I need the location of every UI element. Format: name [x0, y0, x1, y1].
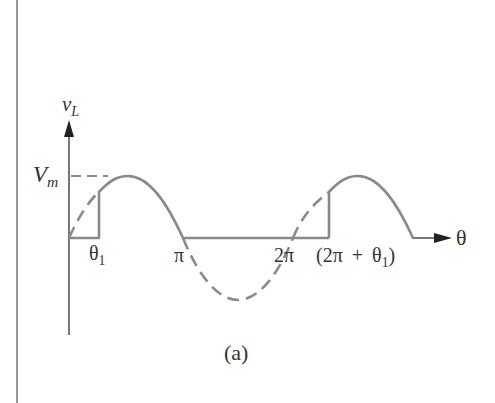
- conduction-waveform-1: [69, 176, 329, 238]
- dashed-rise-segment: [69, 192, 99, 238]
- x-axis-arrow-icon: [434, 233, 452, 243]
- y-axis-arrow-icon: [64, 120, 74, 137]
- tick-label-2pi: 2π: [274, 244, 294, 267]
- x-axis-label: θ: [456, 225, 467, 251]
- amplitude-label: Vm: [33, 162, 58, 188]
- tick-label-pi: π: [174, 244, 184, 267]
- conduction-waveform-2: [329, 176, 414, 238]
- tick-label-theta1: θ1: [89, 242, 105, 265]
- figure-caption: (a): [224, 340, 248, 366]
- tick-label-2pi-plus-theta1: (2π + θ1): [316, 244, 395, 267]
- y-axis-label: vL: [62, 92, 79, 117]
- dashed-rise-segment-2: [293, 192, 329, 238]
